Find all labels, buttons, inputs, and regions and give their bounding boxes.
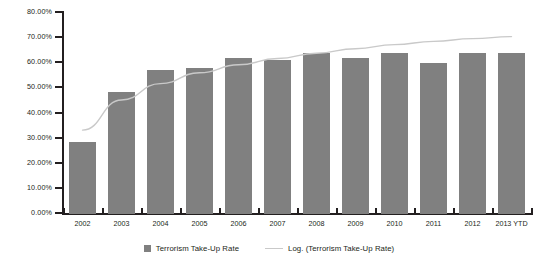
y-axis-tick-label: 20.00% bbox=[4, 158, 52, 167]
x-axis-tick bbox=[531, 208, 533, 215]
x-axis-tick bbox=[453, 208, 455, 215]
x-axis-tick bbox=[141, 208, 143, 215]
y-axis-tick-label: 60.00% bbox=[4, 57, 52, 66]
y-axis-tick-label: 80.00% bbox=[4, 7, 52, 16]
x-axis-tick bbox=[63, 208, 65, 215]
x-axis-label-2004: 2004 bbox=[153, 219, 169, 228]
y-axis-tick-label: 50.00% bbox=[4, 82, 52, 91]
x-axis-tick bbox=[414, 208, 416, 215]
line-swatch-icon bbox=[265, 248, 283, 249]
y-axis-tick-label: 0.00% bbox=[4, 208, 52, 217]
bar-2007 bbox=[264, 60, 291, 214]
bar-2005 bbox=[186, 68, 213, 214]
x-axis-label-2010: 2010 bbox=[387, 219, 403, 228]
legend-item-trend-series: Log. (Terrorism Take-Up Rate) bbox=[265, 244, 394, 253]
x-axis-tick bbox=[102, 208, 104, 215]
bar-2009 bbox=[342, 58, 369, 214]
legend-label-trend-series: Log. (Terrorism Take-Up Rate) bbox=[288, 244, 394, 253]
chart-legend: Terrorism Take-Up Rate Log. (Terrorism T… bbox=[0, 244, 538, 253]
bar-2013-ytd bbox=[498, 53, 525, 214]
bar-2006 bbox=[225, 58, 252, 214]
x-axis-label-2013-ytd: 2013 YTD bbox=[495, 219, 527, 228]
terrorism-take-up-rate-chart: 0.00%10.00%20.00%30.00%40.00%50.00%60.00… bbox=[0, 0, 538, 264]
x-axis-tick bbox=[297, 208, 299, 215]
y-axis-tick-label: 10.00% bbox=[4, 183, 52, 192]
x-axis-label-2003: 2003 bbox=[114, 219, 130, 228]
x-axis-tick bbox=[180, 208, 182, 215]
plot-area bbox=[63, 12, 531, 214]
bar-2004 bbox=[147, 70, 174, 214]
legend-label-bar-series: Terrorism Take-Up Rate bbox=[156, 244, 239, 253]
bar-2008 bbox=[303, 53, 330, 214]
legend-item-bar-series: Terrorism Take-Up Rate bbox=[144, 244, 239, 253]
y-axis-tick-label: 30.00% bbox=[4, 133, 52, 142]
x-axis-label-2012: 2012 bbox=[465, 219, 481, 228]
x-axis-tick bbox=[219, 208, 221, 215]
bar-swatch-icon bbox=[144, 245, 151, 252]
y-axis-tick-label: 70.00% bbox=[4, 32, 52, 41]
x-axis-tick bbox=[336, 208, 338, 215]
x-axis-tick bbox=[375, 208, 377, 215]
x-axis-label-2006: 2006 bbox=[231, 219, 247, 228]
bar-2011 bbox=[420, 63, 447, 214]
x-axis-label-2009: 2009 bbox=[348, 219, 364, 228]
x-axis-label-2008: 2008 bbox=[309, 219, 325, 228]
x-axis-tick bbox=[258, 208, 260, 215]
x-axis-label-2011: 2011 bbox=[426, 219, 441, 228]
bar-2012 bbox=[459, 53, 486, 214]
bar-2010 bbox=[381, 53, 408, 214]
x-axis-label-2005: 2005 bbox=[192, 219, 208, 228]
bar-2002 bbox=[69, 142, 96, 214]
y-axis-tick-label: 40.00% bbox=[4, 108, 52, 117]
x-axis-label-2007: 2007 bbox=[270, 219, 286, 228]
bar-2003 bbox=[108, 92, 135, 214]
x-axis-tick bbox=[492, 208, 494, 215]
x-axis-label-2002: 2002 bbox=[75, 219, 91, 228]
